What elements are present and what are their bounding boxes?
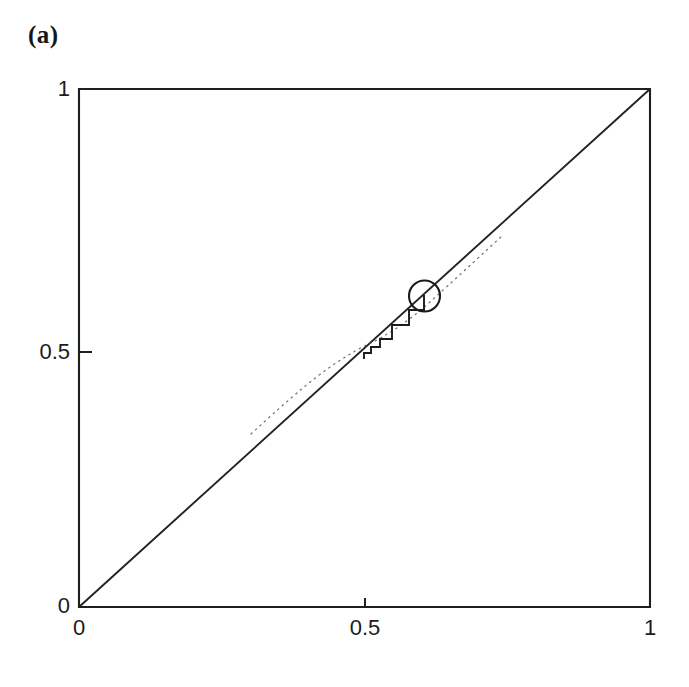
y-tick-label-0: 0: [48, 595, 70, 617]
figure-root: (a) 1 0.5 0 0 0.5 1: [0, 0, 689, 687]
map-curve: [251, 235, 503, 434]
x-tick-label-0point5: 0.5: [342, 617, 388, 639]
y-tick-label-1: 1: [48, 78, 70, 100]
x-tick-label-0: 0: [68, 617, 90, 639]
y-tick-label-0point5: 0.5: [25, 341, 70, 363]
cobweb-plot-canvas: [0, 0, 689, 687]
x-tick-label-1: 1: [639, 617, 661, 639]
identity-line: [79, 89, 650, 607]
cobweb-staircase: [364, 296, 424, 358]
